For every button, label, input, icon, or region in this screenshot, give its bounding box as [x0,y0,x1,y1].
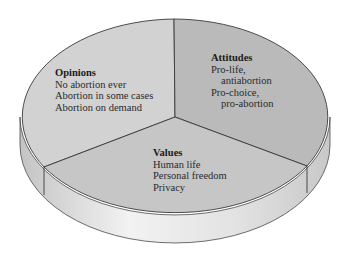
attitudes-title: Attitudes [211,52,274,64]
attitudes-item: Pro-choice, [211,87,274,99]
values-item: Privacy [153,182,227,194]
values-title: Values [153,147,227,159]
label-attitudes: Attitudes Pro-life, antiabortion Pro-cho… [211,52,274,110]
opinions-title: Opinions [55,67,153,79]
label-values: Values Human life Personal freedom Priva… [153,147,227,193]
values-item: Human life [153,159,227,171]
opinions-item: Abortion on demand [55,102,153,114]
attitudes-item: antiabortion [211,75,274,87]
attitudes-item: Pro-life, [211,64,274,76]
label-opinions: Opinions No abortion ever Abortion in so… [55,67,153,113]
attitudes-item: pro-abortion [211,98,274,110]
pie-diagram [0,0,350,260]
opinions-item: No abortion ever [55,79,153,91]
values-item: Personal freedom [153,170,227,182]
opinions-item: Abortion in some cases [55,90,153,102]
